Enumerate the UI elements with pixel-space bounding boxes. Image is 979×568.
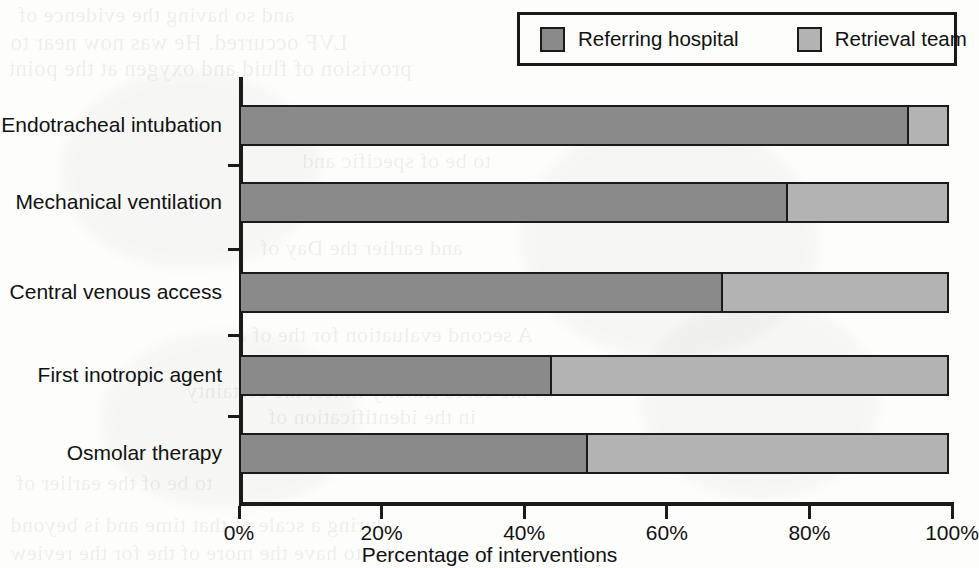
x-axis-tick: [665, 506, 668, 519]
x-axis-tick: [808, 506, 811, 519]
bar-segment-referring-hospital: [239, 433, 588, 474]
legend-label-retrieval-team: Retrieval team: [835, 27, 967, 51]
stacked-bar-chart: Referring hospital Retrieval team 0%20%4…: [0, 0, 979, 568]
bar-segment-retrieval-team: [550, 355, 949, 396]
x-axis-title: Percentage of interventions: [0, 543, 979, 567]
x-axis-tick: [380, 506, 383, 519]
x-axis-tick: [951, 506, 954, 519]
y-axis-tick: [228, 415, 239, 418]
y-axis-category-label: Osmolar therapy: [0, 441, 222, 465]
x-axis-tick-label: 100%: [925, 521, 979, 545]
x-axis-tick-label: 20%: [361, 521, 403, 545]
bar-segment-referring-hospital: [239, 272, 724, 313]
x-axis-tick-label: 80%: [788, 521, 830, 545]
bar-segment-retrieval-team: [907, 105, 950, 146]
bar-row: [239, 272, 952, 313]
x-axis-tick: [238, 506, 241, 519]
y-axis-category-label: Endotracheal intubation: [0, 113, 222, 137]
x-axis-line: [239, 502, 954, 506]
y-axis-tick: [228, 334, 239, 337]
bar-segment-referring-hospital: [239, 182, 788, 223]
chart-legend: Referring hospital Retrieval team: [517, 12, 957, 66]
y-axis-category-label: First inotropic agent: [0, 363, 222, 387]
bar-segment-retrieval-team: [586, 433, 950, 474]
legend-swatch-retrieval-team: [797, 27, 822, 52]
y-axis-category-label: Mechanical ventilation: [0, 190, 222, 214]
legend-label-referring-hospital: Referring hospital: [578, 27, 739, 51]
y-axis-tick: [228, 164, 239, 167]
legend-swatch-referring-hospital: [540, 27, 565, 52]
bar-segment-referring-hospital: [239, 105, 909, 146]
y-axis-category-label: Central venous access: [0, 280, 222, 304]
x-axis-tick: [523, 506, 526, 519]
legend-entry-referring-hospital: Referring hospital: [540, 15, 739, 63]
bar-row: [239, 433, 952, 474]
bar-segment-retrieval-team: [721, 272, 949, 313]
x-axis-tick-label: 0%: [224, 521, 254, 545]
bar-row: [239, 182, 952, 223]
y-axis-tick: [228, 248, 239, 251]
bar-segment-referring-hospital: [239, 355, 553, 396]
x-axis-tick-label: 60%: [646, 521, 688, 545]
bar-row: [239, 105, 952, 146]
legend-entry-retrieval-team: Retrieval team: [797, 15, 967, 63]
bar-segment-retrieval-team: [786, 182, 950, 223]
bar-row: [239, 355, 952, 396]
x-axis-tick-label: 40%: [503, 521, 545, 545]
